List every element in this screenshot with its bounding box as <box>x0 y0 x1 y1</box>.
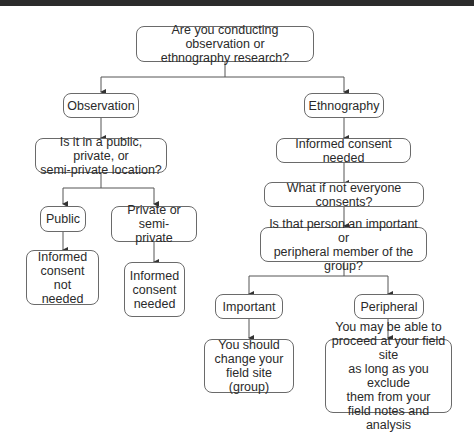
node-change-field-site: You should change your field site (group… <box>204 339 294 393</box>
node-consent-not-needed: Informed consent not needed <box>26 250 99 305</box>
node-location-question: Is it in a public, private, or semi-priv… <box>35 138 167 173</box>
node-informed-consent-needed: Informed consent needed <box>276 138 411 163</box>
node-peripheral: Peripheral <box>354 294 424 319</box>
node-ethnography: Ethnography <box>304 93 384 118</box>
node-private: Private or semi- private <box>111 206 197 242</box>
node-proceed-exclude: You may be able to proceed at your field… <box>325 339 452 413</box>
node-root-question: Are you conducting observation or ethnog… <box>136 26 314 62</box>
node-important: Important <box>215 294 283 319</box>
node-consent-needed-private: Informed consent needed <box>124 262 185 317</box>
node-not-everyone-consents: What if not everyone consents? <box>264 182 424 207</box>
node-observation: Observation <box>63 93 139 118</box>
node-member-question: Is that person an important or periphera… <box>260 227 427 262</box>
node-public: Public <box>40 206 86 232</box>
